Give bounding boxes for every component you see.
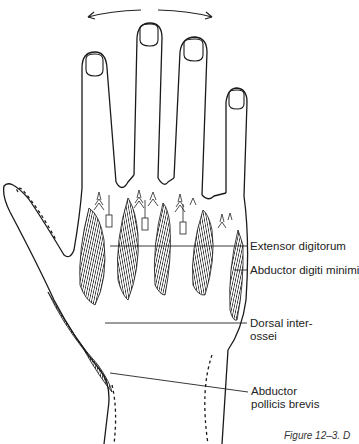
abduction-right-arrow — [158, 10, 212, 17]
label-abductor-digiti-minimi: Abductor digiti minimi — [250, 264, 359, 277]
label-text-line2: ossei — [250, 330, 313, 343]
abductor-digiti-minimi-muscle — [230, 230, 243, 320]
abduction-left-arrow — [88, 10, 141, 17]
label-extensor-digitorum: Extensor digitorum — [250, 240, 346, 253]
abduction-arrows — [88, 10, 212, 19]
figure-caption: Figure 12–3. D — [284, 430, 350, 441]
dorsal-interossei-muscles — [80, 198, 213, 305]
label-text: Abductor digiti minimi — [250, 264, 359, 276]
label-text-line1: Dorsal inter- — [250, 317, 313, 330]
label-text-line2: pollicis brevis — [251, 398, 319, 411]
label-text: Extensor digitorum — [250, 240, 346, 252]
label-abductor-pollicis-brevis: Abductor pollicis brevis — [251, 385, 319, 411]
label-text-line1: Abductor — [251, 385, 319, 398]
label-dorsal-interossei: Dorsal inter- ossei — [250, 317, 313, 343]
